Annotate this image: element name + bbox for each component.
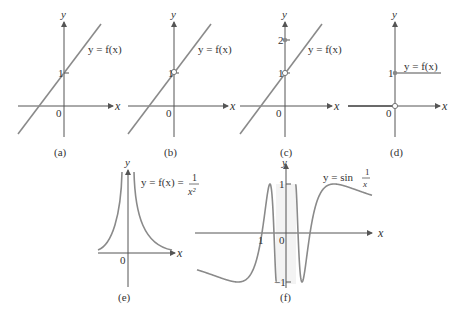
tick-label: 1 [279,178,285,190]
origin-label: 0 [279,234,285,246]
y-axis-label: y [170,8,176,20]
panel-a: 1 0 y x y = f(x) (a) [18,8,122,159]
panel-f: 1 −1 1 0 y x y = sin 1 x (f) [195,156,384,304]
caption: (f) [280,291,291,304]
x-tick-label: 1 [258,234,264,246]
x-axis-label: x [333,99,340,113]
origin-label: 0 [120,254,126,266]
curve-label: y = f(x) [308,43,342,56]
panel-b: 1 0 y x y = f(x) (b) [128,8,236,159]
x-axis-label: x [229,99,236,113]
open-point [392,103,397,108]
curve-label: y = f(x) [198,43,232,56]
tick-label: 1 [278,67,284,79]
origin-label: 0 [276,107,282,119]
panel-d: 1 0 y x y = f(x) (d) [348,8,448,159]
caption: (e) [118,291,131,304]
x-axis-label: x [176,246,183,260]
fraction-numerator: 1 [365,167,370,177]
caption: (d) [390,146,403,159]
caption: (a) [54,146,67,159]
fraction-denominator: x² [187,186,196,197]
tick-label: 2 [278,34,284,46]
panel-c: 1 2 0 y x y = f(x) (c) [240,8,342,159]
y-axis-label: y [391,8,397,20]
y-axis-label: y [124,156,130,168]
curve-label: y = f(x) [404,60,438,73]
tick-label: −1 [274,276,286,288]
fraction-denominator: x [362,179,367,189]
x-axis-label: x [114,99,121,113]
origin-label: 0 [386,107,392,119]
y-axis-label: y [60,8,66,20]
x-axis-label: x [377,226,384,240]
curve-label: y = sin [323,171,354,183]
tick-label: 1 [388,67,394,79]
y-axis-label: y [281,156,287,168]
origin-label: 0 [166,107,172,119]
curve-label: y = f(x) [88,43,122,56]
fraction-numerator: 1 [192,172,197,183]
tick-label: 1 [168,67,174,79]
caption: (b) [164,146,177,159]
y-axis-label: y [281,8,287,20]
origin-label: 0 [56,107,62,119]
curve-left [98,172,122,250]
tick-label: 1 [58,67,64,79]
panel-e: 0 y x y = f(x) = 1 x² (e) [98,156,199,304]
curve-label: y = f(x) = [141,176,184,189]
x-axis-label: x [441,99,448,113]
